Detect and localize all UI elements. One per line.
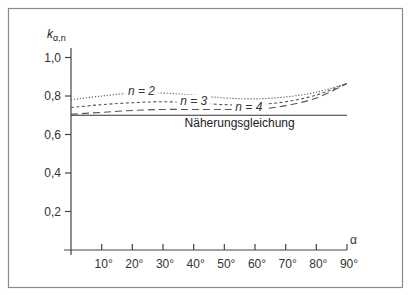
curve-label: n = 4 [235, 100, 262, 114]
x-tick-label: 50° [217, 257, 235, 271]
x-tick-label: 90° [340, 257, 358, 271]
x-tick-label: 80° [309, 257, 327, 271]
chart: kα,n α 0,20,40,60,81,0 10°20°30°40°50°60… [0, 0, 408, 295]
x-tick-label: 20° [125, 257, 143, 271]
x-tick-label: 30° [156, 257, 174, 271]
x-axis-label: α [350, 233, 357, 247]
curve-label: n = 2 [128, 84, 155, 98]
x-tick-label: 10° [95, 257, 113, 271]
y-tick-label: 1,0 [44, 51, 61, 65]
x-tick-label: 40° [187, 257, 205, 271]
chart-frame [9, 9, 403, 288]
y-tick-label: 0,2 [44, 205, 61, 219]
x-tick-label: 60° [248, 257, 266, 271]
approximation-label: Näherungsgleichung [185, 116, 295, 130]
y-tick-label: 0,6 [44, 128, 61, 142]
curve-label: n = 3 [180, 94, 207, 108]
y-tick-label: 0,4 [44, 166, 61, 180]
y-tick-label: 0,8 [44, 89, 61, 103]
x-tick-label: 70° [279, 257, 297, 271]
